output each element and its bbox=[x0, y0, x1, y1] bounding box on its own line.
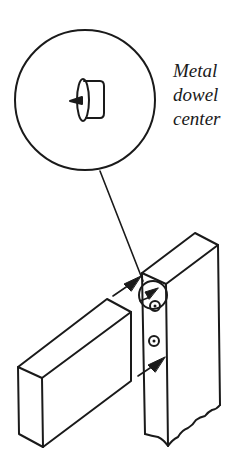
torn-bottom-edge bbox=[145, 405, 220, 446]
dowel-hole-lower bbox=[149, 336, 159, 346]
dowel-spike bbox=[70, 97, 82, 104]
callout-label-line-3: center bbox=[173, 107, 220, 131]
callout-label-line-2: dowel bbox=[173, 83, 218, 107]
magnified-callout bbox=[15, 30, 155, 170]
vertical-stile bbox=[139, 233, 220, 446]
callout-circle bbox=[15, 30, 155, 170]
leader-line bbox=[100, 171, 143, 281]
horizontal-rail bbox=[18, 299, 131, 447]
arrow-lower bbox=[138, 357, 165, 376]
callout-label-line-1: Metal bbox=[173, 59, 217, 83]
arrow-inside-circle bbox=[145, 288, 158, 299]
dowel-center-icon bbox=[70, 79, 104, 121]
arrow-upper bbox=[113, 276, 141, 296]
